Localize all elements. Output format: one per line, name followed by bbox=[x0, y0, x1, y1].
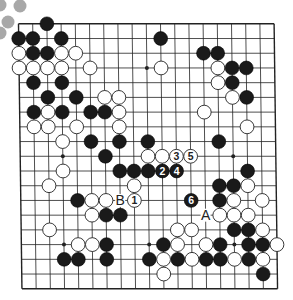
black-stone bbox=[142, 252, 156, 266]
white-stone bbox=[27, 120, 41, 134]
white-stone bbox=[213, 208, 227, 222]
white-stone bbox=[227, 208, 241, 222]
black-stone bbox=[141, 135, 155, 149]
black-stone bbox=[99, 149, 113, 163]
black-stone bbox=[27, 105, 41, 119]
move-1-label: 1 bbox=[131, 194, 137, 206]
white-stone bbox=[227, 194, 241, 208]
black-stone bbox=[199, 252, 213, 266]
white-stone bbox=[85, 208, 99, 222]
white-stone bbox=[98, 91, 112, 105]
white-stone bbox=[99, 194, 113, 208]
white-stone bbox=[270, 238, 284, 252]
white-stone bbox=[157, 252, 171, 266]
black-stone bbox=[113, 208, 127, 222]
black-stone bbox=[225, 76, 239, 90]
go-board: 123456BA bbox=[0, 0, 293, 300]
black-stone bbox=[71, 252, 85, 266]
black-stone bbox=[225, 61, 239, 75]
black-stone bbox=[12, 32, 26, 46]
black-stone bbox=[40, 46, 54, 60]
white-stone bbox=[85, 194, 99, 208]
white-stone bbox=[256, 252, 270, 266]
move-2-label: 2 bbox=[159, 165, 165, 177]
white-stone bbox=[197, 105, 211, 119]
black-stone bbox=[127, 164, 141, 178]
black-stone bbox=[57, 252, 71, 266]
black-stone bbox=[197, 46, 211, 60]
black-stone bbox=[213, 238, 227, 252]
black-stone bbox=[26, 32, 40, 46]
black-stone bbox=[241, 223, 255, 237]
white-stone bbox=[256, 223, 270, 237]
black-stone bbox=[156, 238, 170, 252]
white-stone bbox=[83, 61, 97, 75]
white-stone bbox=[185, 223, 199, 237]
black-stone bbox=[213, 252, 227, 266]
white-stone bbox=[170, 223, 184, 237]
label-A: A bbox=[201, 207, 211, 223]
white-stone bbox=[112, 120, 126, 134]
black-stone bbox=[55, 76, 69, 90]
white-stone bbox=[255, 194, 269, 208]
white-stone bbox=[71, 238, 85, 252]
black-stone bbox=[213, 179, 227, 193]
star-point bbox=[147, 243, 151, 247]
star-point bbox=[62, 243, 66, 247]
black-stone bbox=[256, 238, 270, 252]
white-stone bbox=[26, 61, 40, 75]
black-stone bbox=[41, 91, 55, 105]
white-stone bbox=[70, 120, 84, 134]
black-stone bbox=[99, 208, 113, 222]
white-stone bbox=[43, 223, 57, 237]
white-stone bbox=[42, 179, 56, 193]
black-stone bbox=[98, 105, 112, 119]
black-stone bbox=[54, 32, 68, 46]
black-stone bbox=[212, 135, 226, 149]
white-stone bbox=[240, 120, 254, 134]
black-stone bbox=[239, 61, 253, 75]
white-stone bbox=[41, 61, 55, 75]
black-stone bbox=[40, 17, 54, 31]
white-stone bbox=[69, 46, 83, 60]
black-stone bbox=[154, 32, 168, 46]
white-stone bbox=[141, 149, 155, 163]
black-stone bbox=[113, 164, 127, 178]
black-stone bbox=[213, 194, 227, 208]
star-point bbox=[231, 154, 235, 158]
white-stone bbox=[56, 135, 70, 149]
white-stone bbox=[41, 120, 55, 134]
white-stone bbox=[211, 76, 225, 90]
white-stone bbox=[171, 238, 185, 252]
star-point bbox=[232, 243, 236, 247]
white-stone bbox=[112, 91, 126, 105]
white-stone bbox=[228, 252, 242, 266]
black-stone bbox=[227, 223, 241, 237]
white-stone bbox=[157, 267, 171, 281]
black-stone bbox=[100, 238, 114, 252]
white-stone bbox=[55, 46, 69, 60]
black-stone bbox=[26, 46, 40, 60]
white-stone bbox=[155, 149, 169, 163]
white-stone bbox=[199, 238, 213, 252]
black-stone bbox=[27, 76, 41, 90]
black-stone bbox=[241, 164, 255, 178]
star-point bbox=[145, 66, 149, 70]
black-stone bbox=[84, 105, 98, 119]
black-stone bbox=[84, 135, 98, 149]
black-stone bbox=[256, 267, 270, 281]
black-stone bbox=[242, 238, 256, 252]
black-stone bbox=[242, 252, 256, 266]
black-stone bbox=[55, 105, 69, 119]
black-stone bbox=[69, 91, 83, 105]
black-stone bbox=[100, 252, 114, 266]
black-stone bbox=[171, 252, 185, 266]
black-stone bbox=[211, 46, 225, 60]
move-6-label: 6 bbox=[188, 194, 194, 206]
white-stone bbox=[41, 105, 55, 119]
move-5-label: 5 bbox=[188, 150, 194, 162]
star-point bbox=[61, 154, 65, 158]
white-stone bbox=[12, 61, 26, 75]
move-3-label: 3 bbox=[174, 150, 180, 162]
black-stone bbox=[227, 179, 241, 193]
